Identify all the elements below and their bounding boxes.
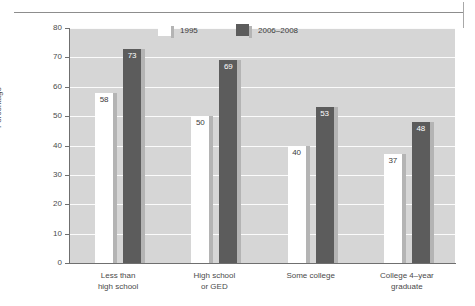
- category-label-line: graduate: [352, 281, 462, 292]
- y-tick-mark: [65, 116, 69, 117]
- bar-shadow: [141, 49, 145, 263]
- bar: 73: [123, 49, 141, 263]
- crop-mark-icon: [463, 2, 464, 28]
- category-label: Less thanhigh school: [63, 270, 173, 292]
- bar-value-label: 50: [191, 119, 209, 127]
- bar: 58: [95, 93, 113, 263]
- bar: 50: [191, 116, 209, 263]
- category-label: College 4–yeargraduate: [352, 270, 462, 292]
- legend-swatch-shadow: [249, 26, 252, 38]
- y-tick-mark: [65, 234, 69, 235]
- y-tick-mark: [65, 146, 69, 147]
- y-tick-label: 80: [34, 24, 62, 32]
- bar-body: [191, 116, 209, 263]
- bar-value-label: 37: [384, 157, 402, 165]
- category-label-line: Less than: [63, 270, 173, 281]
- y-tick-label: 70: [34, 53, 62, 61]
- category-label: High schoolor GED: [159, 270, 269, 292]
- bar-body: [384, 154, 402, 263]
- legend-label: 1995: [180, 26, 198, 35]
- legend-label: 2006–2008: [258, 26, 298, 35]
- y-tick-label: 60: [34, 83, 62, 91]
- bar: 37: [384, 154, 402, 263]
- bar-body: [219, 60, 237, 263]
- y-tick-mark: [65, 57, 69, 58]
- y-tick-mark: [65, 204, 69, 205]
- bar-body: [316, 107, 334, 263]
- y-tick-label: 50: [34, 112, 62, 120]
- bar-value-label: 53: [316, 110, 334, 118]
- bar-value-label: 73: [123, 52, 141, 60]
- bar-shadow: [306, 146, 310, 264]
- header-rule: [14, 12, 463, 13]
- bar-body: [123, 49, 141, 263]
- bar-body: [412, 122, 430, 263]
- bar: 48: [412, 122, 430, 263]
- y-tick-mark: [65, 263, 69, 264]
- bar-shadow: [237, 60, 241, 263]
- y-axis-tick-labels: 80706050403020100: [32, 0, 62, 306]
- bar-chart-figure: 80706050403020100 Percentage 58735069405…: [0, 0, 475, 306]
- y-tick-label: 30: [34, 171, 62, 179]
- bar: 40: [288, 146, 306, 264]
- category-label-line: High school: [159, 270, 269, 281]
- y-tick-mark: [65, 28, 69, 29]
- bar-shadow: [402, 154, 406, 263]
- legend-swatch-fill: [236, 24, 249, 36]
- bar-value-label: 48: [412, 125, 430, 133]
- dark-swatch: [236, 24, 249, 36]
- legend-swatch-fill: [158, 24, 171, 36]
- y-tick-label: 40: [34, 142, 62, 150]
- bar-body: [288, 146, 306, 264]
- bar-shadow: [209, 116, 213, 263]
- bar-body: [95, 93, 113, 263]
- y-tick-label: 0: [34, 259, 62, 267]
- bar-value-label: 58: [95, 96, 113, 104]
- legend-swatch-shadow: [171, 26, 174, 38]
- category-label-line: Some college: [256, 270, 366, 281]
- bar-shadow: [113, 93, 117, 263]
- bar: 69: [219, 60, 237, 263]
- y-axis-title: Percentage: [0, 87, 3, 128]
- y-tick-label: 10: [34, 230, 62, 238]
- y-axis-line: [69, 28, 70, 264]
- x-axis-line: [69, 263, 456, 264]
- bar-value-label: 69: [219, 63, 237, 71]
- category-label: Some college: [256, 270, 366, 281]
- bar-shadow: [430, 122, 434, 263]
- y-tick-mark: [65, 87, 69, 88]
- category-label-line: high school: [63, 281, 173, 292]
- category-label-line: or GED: [159, 281, 269, 292]
- category-label-line: College 4–year: [352, 270, 462, 281]
- y-tick-mark: [65, 175, 69, 176]
- bar-shadow: [334, 107, 338, 263]
- bar: 53: [316, 107, 334, 263]
- white-swatch: [158, 24, 171, 36]
- bar-value-label: 40: [288, 149, 306, 157]
- y-tick-label: 20: [34, 200, 62, 208]
